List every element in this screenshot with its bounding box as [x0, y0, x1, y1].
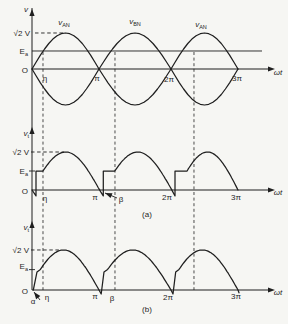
label-curve-label-vbn: vBN [129, 17, 141, 27]
curve-vt-bottom [33, 250, 239, 294]
label-xtick-eta-a: η [43, 194, 47, 203]
y-axis-arrow-3 [29, 221, 34, 228]
label-xtick-beta-a: β [119, 195, 124, 204]
label-xtick-pi: π [94, 74, 100, 83]
label-xtick-2pi-a: 2π [162, 193, 172, 202]
label-ytick-sqrt2v-b: √2 V [13, 246, 30, 255]
y-axis-arrow-1 [29, 9, 34, 16]
label-xtick-pi-a: π [92, 193, 98, 202]
label-ytick-o-a: O [22, 187, 28, 196]
label-curve-label-van-2: vAN [195, 20, 207, 30]
beta-pointer-a-head [105, 193, 113, 198]
curve-vt-middle [32, 152, 238, 196]
label-ytick-ea-a: Ea [20, 167, 29, 177]
label-xtick-3pi-b: 3π [231, 292, 241, 301]
label-xtick-beta-b: β [110, 294, 115, 303]
y-axis-arrow-2 [29, 127, 34, 134]
label-xtick-eta-b: η [45, 293, 49, 302]
label-ytick-sqrt2v-a: √2 V [13, 148, 30, 157]
label-vt-axis-label-a: vt [23, 129, 29, 139]
label-ytick-sqrt2v: √2 V [14, 29, 31, 38]
label-xtick-2pi-b: 2π [163, 293, 173, 302]
label-xtick-alpha-b: α [31, 297, 36, 306]
label-ytick-ea: Ea [20, 47, 29, 57]
label-ytick-o-b: O [22, 287, 28, 296]
label-caption-a: (a) [142, 210, 152, 219]
label-xtick-3pi: 3π [232, 74, 242, 83]
label-v-axis-label: v [24, 5, 29, 14]
waveform-figure: vvANvBNvAN√2 VEaOηπ2π3πωtvt√2 VEaOηπβ2π3… [0, 0, 288, 324]
label-xtick-pi-b: π [92, 292, 98, 301]
label-xtick-eta: η [43, 74, 47, 83]
label-xtick-2pi: 2π [164, 75, 174, 84]
label-ytick-ea-b: Ea [20, 262, 29, 272]
label-curve-label-van-1: vAN [58, 18, 70, 28]
label-xaxis-label-wt: ωt [274, 68, 283, 77]
label-xaxis-label-wt-b: ωt [274, 288, 283, 297]
label-vt-axis-label-b: vt [23, 223, 29, 233]
figure-canvas: vvANvBNvAN√2 VEaOηπ2π3πωtvt√2 VEaOηπβ2π3… [0, 0, 288, 324]
label-xaxis-label-wt-a: ωt [274, 188, 283, 197]
label-caption-b: (b) [142, 305, 152, 314]
label-xtick-3pi-a: 3π [231, 193, 241, 202]
label-ytick-o: O [22, 66, 28, 75]
